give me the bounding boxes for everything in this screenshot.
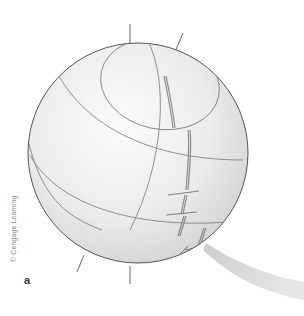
copyright-credit: © Cengage Learning [10,195,17,262]
panel-label: a [24,274,30,286]
globe-diagram [0,0,304,316]
sphere [28,43,248,263]
plume-band [203,243,304,300]
